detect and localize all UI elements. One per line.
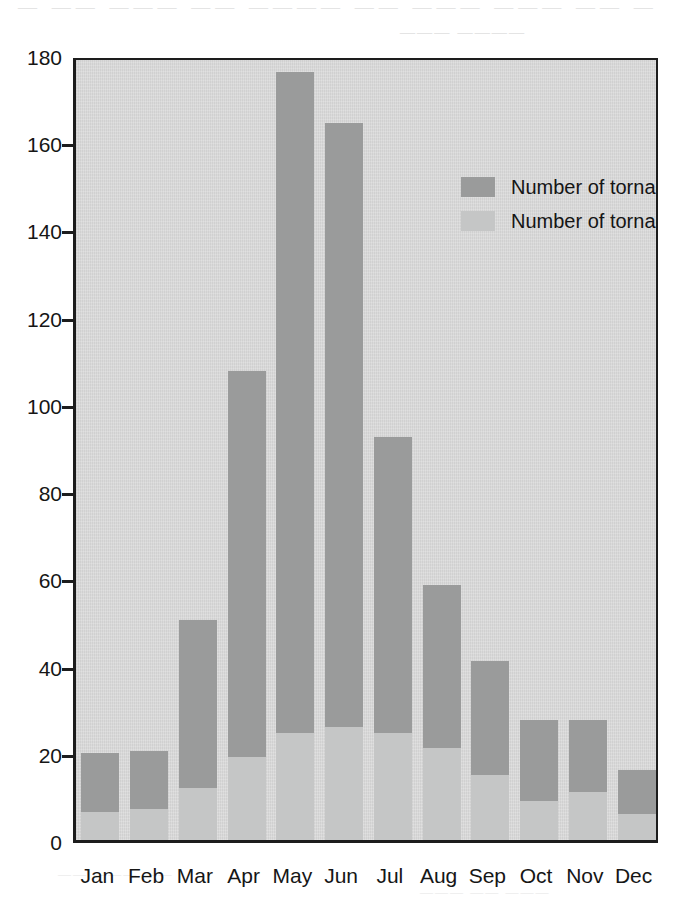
legend-swatch-tornado-days bbox=[461, 211, 495, 231]
y-tick-label-0: 0 bbox=[6, 832, 62, 853]
bar-segment-tornado-days-feb bbox=[130, 809, 168, 840]
y-tick-mark-120 bbox=[62, 319, 73, 322]
x-tick-label-oct: Oct bbox=[512, 865, 560, 886]
x-tick-label-feb: Feb bbox=[122, 865, 170, 886]
bar-segment-tornado-days-dec bbox=[618, 814, 656, 840]
bar-segment-tornado-days-sep bbox=[471, 775, 509, 840]
y-tick-label-40: 40 bbox=[6, 658, 62, 679]
x-tick-label-apr: Apr bbox=[220, 865, 268, 886]
bar-segment-tornado-days-may bbox=[276, 733, 314, 840]
bar-segment-tornadoes-may bbox=[276, 72, 314, 840]
y-axis: 020406080100120140160180 bbox=[0, 0, 62, 909]
x-tick-label-mar: Mar bbox=[171, 865, 219, 886]
x-tick-label-sep: Sep bbox=[463, 865, 511, 886]
bar-segment-tornado-days-jan bbox=[81, 812, 119, 840]
bar-segment-tornado-days-jun bbox=[325, 727, 363, 840]
y-tick-mark-100 bbox=[62, 406, 73, 409]
bar-segment-tornado-days-oct bbox=[520, 801, 558, 840]
y-tick-label-20: 20 bbox=[6, 745, 62, 766]
bar-group-jul bbox=[374, 437, 412, 840]
y-tick-label-60: 60 bbox=[6, 570, 62, 591]
tornado-statistics-bar-chart: 020406080100120140160180 Number of torna… bbox=[0, 0, 690, 909]
chart-legend: Number of tornadoesNumber of tornado day… bbox=[461, 170, 658, 238]
bar-group-aug bbox=[423, 585, 461, 840]
bar-group-apr bbox=[228, 371, 266, 840]
x-tick-label-jul: Jul bbox=[366, 865, 414, 886]
plot-area: Number of tornadoesNumber of tornado day… bbox=[73, 58, 658, 843]
y-tick-label-120: 120 bbox=[6, 309, 62, 330]
bar-group-may bbox=[276, 72, 314, 840]
y-tick-mark-60 bbox=[62, 580, 73, 583]
legend-item-2: Number of tornado days bbox=[461, 204, 658, 238]
bar-group-sep bbox=[471, 661, 509, 840]
y-tick-mark-40 bbox=[62, 668, 73, 671]
bar-group-feb bbox=[130, 751, 168, 840]
bar-segment-tornado-days-aug bbox=[423, 748, 461, 840]
bar-group-jun bbox=[325, 123, 363, 840]
y-tick-mark-160 bbox=[62, 144, 73, 147]
legend-label-1: Number of tornadoes bbox=[511, 176, 658, 199]
x-tick-label-nov: Nov bbox=[561, 865, 609, 886]
y-tick-mark-20 bbox=[62, 755, 73, 758]
bar-segment-tornado-days-nov bbox=[569, 792, 607, 840]
bar-group-oct bbox=[520, 720, 558, 840]
bar-group-jan bbox=[81, 753, 119, 840]
y-tick-label-80: 80 bbox=[6, 483, 62, 504]
x-tick-label-jun: Jun bbox=[317, 865, 365, 886]
bar-group-mar bbox=[179, 620, 217, 840]
x-tick-label-may: May bbox=[268, 865, 316, 886]
y-tick-label-140: 140 bbox=[6, 221, 62, 242]
y-tick-mark-140 bbox=[62, 231, 73, 234]
x-tick-label-aug: Aug bbox=[415, 865, 463, 886]
x-tick-label-jan: Jan bbox=[73, 865, 121, 886]
y-tick-mark-80 bbox=[62, 493, 73, 496]
legend-item-1: Number of tornadoes bbox=[461, 170, 658, 204]
bar-segment-tornado-days-apr bbox=[228, 757, 266, 840]
bar-segment-tornado-days-mar bbox=[179, 788, 217, 840]
bar-group-dec bbox=[618, 770, 656, 840]
y-tick-label-160: 160 bbox=[6, 134, 62, 155]
y-tick-label-180: 180 bbox=[6, 47, 62, 68]
x-tick-label-dec: Dec bbox=[610, 865, 658, 886]
bar-group-nov bbox=[569, 720, 607, 840]
x-axis: JanFebMarAprMayJunJulAugSepOctNovDec bbox=[73, 852, 658, 886]
legend-swatch-tornadoes bbox=[461, 177, 495, 197]
legend-label-2: Number of tornado days bbox=[511, 210, 658, 233]
y-tick-label-100: 100 bbox=[6, 396, 62, 417]
bar-segment-tornado-days-jul bbox=[374, 733, 412, 840]
